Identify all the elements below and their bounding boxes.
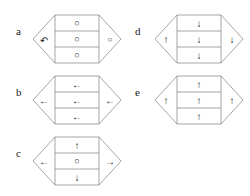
row-2-marker: ○ [74,157,79,166]
hexagon-c: ↑ ○ ↓ ← → [31,134,123,188]
row-1-marker: ↑ [197,80,202,89]
row-1-marker: ↓ [197,19,202,28]
left-point-marker: ← [39,157,49,166]
row-1-marker: ← [72,80,82,89]
row-1-marker: ↑ [75,141,80,150]
row-3-marker: ↑ [197,112,202,121]
right-point-marker: ○ [108,35,113,44]
row-3-marker: ↓ [75,173,80,182]
figure-panel-c: c ↑ ○ ↓ ← → [8,132,124,190]
diagram-sheet: a ○ ○ ○ ↶ ○ b ← [0,0,250,196]
row-3-marker: ○ [74,51,79,60]
hexagon-b: ← ← ← ← ← [31,73,123,127]
figure-panel-b: b ← ← ← ← ← [8,71,124,129]
right-point-marker: ↑ [230,96,235,105]
figure-panel-e: e ↑ ↑ ↑ ↑ ↑ [130,71,246,129]
hexagon-e: ↑ ↑ ↑ ↑ ↑ [153,73,245,127]
figure-panel-d: d ↓ ↓ ↓ ↑ ↓ [130,10,246,68]
left-point-marker: ↑ [164,35,169,44]
panel-label-a: a [16,26,21,37]
row-3-marker: ↓ [197,51,202,60]
figure-panel-a: a ○ ○ ○ ↶ ○ [8,10,124,68]
row-3-marker: ← [72,112,82,121]
row-1-marker: ○ [74,19,79,28]
panel-label-b: b [16,87,22,98]
panel-label-d: d [135,26,141,37]
panel-label-e: e [135,87,140,98]
hexagon-a: ○ ○ ○ ↶ ○ [31,12,123,66]
panel-label-c: c [16,148,21,159]
right-point-marker: ↓ [230,35,235,44]
row-2-marker: ↓ [197,35,202,44]
right-point-marker: → [105,157,115,166]
row-2-marker: ← [72,96,82,105]
right-point-marker: ← [105,96,115,105]
row-2-marker: ↑ [197,96,202,105]
left-point-marker: ← [39,96,49,105]
hexagon-d: ↓ ↓ ↓ ↑ ↓ [153,12,245,66]
row-2-marker: ○ [74,35,79,44]
left-point-marker: ↶ [40,36,48,45]
left-point-marker: ↑ [164,96,169,105]
